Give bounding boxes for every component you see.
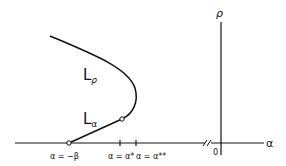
alpha-double-star-tick-label: α = α** bbox=[136, 152, 166, 161]
upper-branch-label: Lρ bbox=[83, 66, 97, 85]
alpha-axis-label: α bbox=[266, 137, 273, 150]
point-alpha-star bbox=[120, 117, 124, 121]
bifurcation-diagram: ρ α 0 Lρ Lα α = −β α = α* α = α** bbox=[0, 0, 286, 166]
beta-tick-label: α = −β bbox=[50, 152, 79, 161]
lower-branch-label: Lα bbox=[83, 110, 97, 129]
alpha-star-tick-label: α = α* bbox=[108, 152, 134, 161]
point-minus-beta bbox=[67, 141, 71, 145]
origin-label: 0 bbox=[213, 148, 218, 157]
axis-break-mark bbox=[207, 140, 211, 146]
rho-axis-label: ρ bbox=[216, 7, 223, 20]
